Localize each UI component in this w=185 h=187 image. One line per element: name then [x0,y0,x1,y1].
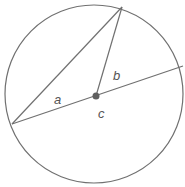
label-a: a [54,92,61,107]
label-c: c [98,106,105,121]
center-point [93,93,100,100]
geometry-diagram: a b c [0,0,185,187]
label-b: b [113,68,120,83]
